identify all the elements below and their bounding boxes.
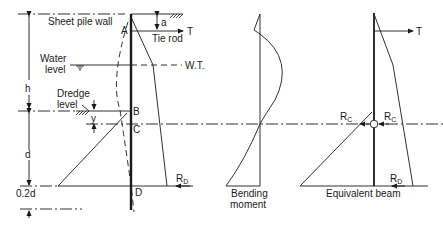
ground-hatch-dredge <box>76 111 89 115</box>
equivalent-beam-caption: Equivalent beam <box>326 188 401 199</box>
rc-right-label: RC <box>384 111 396 123</box>
eq-passive-pressure <box>300 112 372 186</box>
tie-rod-label: Tie rod <box>152 33 183 44</box>
water-table-label: W.T. <box>185 60 204 71</box>
point-b-label: B <box>133 106 140 117</box>
eq-tie-label: T <box>416 26 422 37</box>
bm-caption-2: moment <box>230 199 266 210</box>
y-label: y <box>91 113 96 124</box>
reaction-d-label: RD <box>176 173 188 185</box>
hinge-c <box>370 120 378 128</box>
point-d-label: D <box>135 187 142 198</box>
sheet-pile-diagram: h Sheet pile wall a T Tie rod A Water le… <box>0 0 443 229</box>
ground-hatch-top <box>170 14 183 18</box>
water-level-symbol <box>76 66 84 70</box>
equivalent-beam-panel: T RC RC RD Equivalent beam <box>300 13 428 199</box>
eq-active-pressure <box>374 14 413 186</box>
sheet-pile-wall-label: Sheet pile wall <box>48 16 112 27</box>
a-label: a <box>161 17 167 28</box>
bm-caption-1: Bending <box>231 188 268 199</box>
dredge-level-label-2: level <box>57 99 78 110</box>
point-c-label: C <box>133 124 140 135</box>
bm-curve <box>226 34 282 186</box>
0.2d-label: 0.2d <box>16 188 35 199</box>
tie-force-label: T <box>187 26 193 37</box>
bending-moment-panel: Bending moment <box>226 14 282 210</box>
water-level-label-1: Water <box>40 53 67 64</box>
bm-top-cantilever <box>254 14 260 34</box>
dredge-leader <box>82 105 89 111</box>
d-label: d <box>25 149 31 160</box>
dredge-level-label-1: Dredge <box>57 88 90 99</box>
water-level-label-2: level <box>45 64 66 75</box>
h-label: h <box>25 83 31 94</box>
eq-rd-label: RD <box>390 173 402 185</box>
rc-left-label: RC <box>340 111 352 123</box>
